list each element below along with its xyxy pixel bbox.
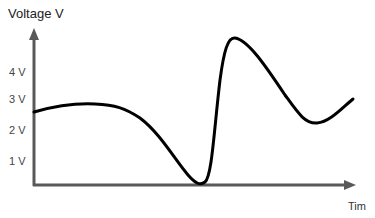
- plot-area: [0, 0, 375, 218]
- x-axis-arrow-icon: [344, 180, 356, 190]
- voltage-curve: [34, 38, 353, 184]
- voltage-time-chart: Voltage V 4 V 3 V 2 V 1 V Tim: [0, 0, 375, 218]
- y-axis-arrow-icon: [29, 28, 39, 40]
